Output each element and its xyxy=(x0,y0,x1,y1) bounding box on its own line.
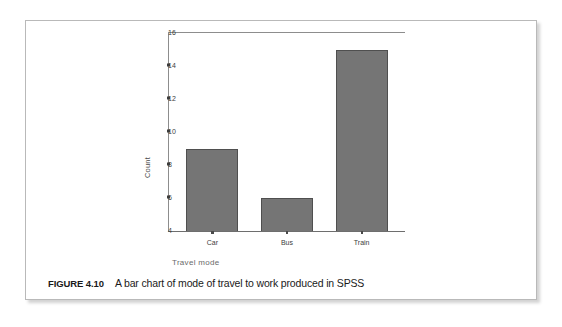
y-axis-tick-mark xyxy=(167,130,170,133)
bar-train[interactable] xyxy=(336,50,388,232)
plot-frame: CarBusTrain xyxy=(168,32,405,232)
y-axis-tick-mark xyxy=(167,64,170,67)
x-axis-tick-label: Bus xyxy=(281,239,293,246)
bar-car[interactable] xyxy=(186,149,238,232)
y-axis-tick-mark xyxy=(167,97,170,100)
y-axis-tick-mark xyxy=(167,196,170,199)
bar-slot: Bus xyxy=(261,33,313,231)
x-axis-tick-mark xyxy=(361,231,364,234)
figure-caption-number: FIGURE 4.10 xyxy=(48,278,104,289)
bar-group: CarBusTrain xyxy=(169,33,405,231)
bar-slot: Train xyxy=(336,33,388,231)
y-axis-tick-label: 4 xyxy=(168,227,172,234)
x-axis-tick-mark xyxy=(211,231,214,234)
figure-caption: FIGURE 4.10 A bar chart of mode of trave… xyxy=(48,277,364,289)
x-axis-tick-label: Car xyxy=(207,239,218,246)
bar-chart-plot: CarBusTrain 16141210864 xyxy=(143,32,405,238)
bar-slot: Car xyxy=(186,33,238,231)
figure-page: Count CarBusTrain 16141210864 Travel mod… xyxy=(0,0,562,327)
x-axis-title: Travel mode xyxy=(172,258,219,267)
y-axis-tick-mark xyxy=(167,163,170,166)
x-axis-tick-mark xyxy=(286,231,289,234)
x-axis-tick-label: Train xyxy=(354,239,370,246)
y-axis-tick-label: 16 xyxy=(168,29,172,36)
bar-bus[interactable] xyxy=(261,198,313,231)
figure-caption-text: A bar chart of mode of travel to work pr… xyxy=(115,277,364,289)
